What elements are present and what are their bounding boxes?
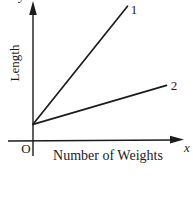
x-axis-arrowhead-icon [170, 136, 184, 144]
series-line-1 [33, 6, 128, 124]
figure-plot: y Length O x Number of Weights 1 2 [0, 0, 193, 202]
x-axis-title-label: Number of Weights [53, 148, 163, 163]
x-axis-letter-label: x [183, 140, 190, 155]
x-axis-line [8, 140, 172, 141]
y-axis-title-label: Length [7, 44, 22, 81]
series-line-2 [33, 85, 167, 124]
figure-container: y Length O x Number of Weights 1 2 [0, 0, 193, 202]
y-axis-letter-label: y [17, 0, 25, 3]
series-1-label: 1 [131, 2, 138, 17]
series-2-label: 2 [171, 78, 178, 93]
origin-label: O [21, 141, 30, 156]
y-axis-arrowhead-icon [29, 1, 37, 15]
